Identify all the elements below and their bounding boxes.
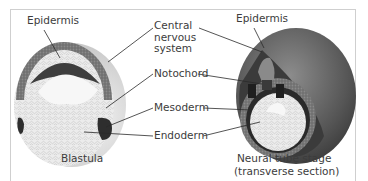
label-epidermis-left: Epidermis <box>27 15 79 27</box>
label-notochord: Notochord <box>154 68 208 80</box>
label-endoderm: Endoderm <box>154 130 208 142</box>
label-cns-line3: system <box>154 43 192 55</box>
label-cns-line1: Central <box>154 20 192 32</box>
neural-tube-illustration <box>236 28 356 164</box>
caption-blastula: Blastula <box>61 152 103 165</box>
caption-neural-tube-line2: (transverse section) <box>234 165 339 178</box>
caption-neural-tube-line1: Neural tube stage <box>237 152 331 165</box>
label-mesoderm: Mesoderm <box>154 102 209 114</box>
label-epidermis-right: Epidermis <box>236 13 288 25</box>
